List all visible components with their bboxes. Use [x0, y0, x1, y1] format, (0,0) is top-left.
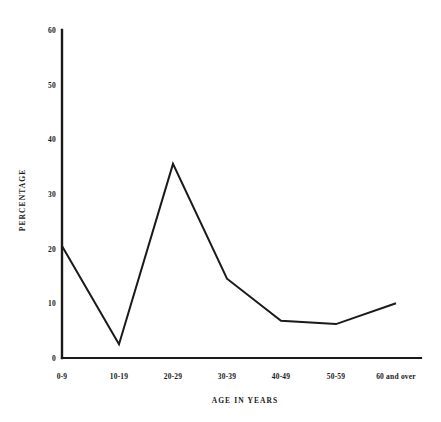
y-tick-label-30: 30 — [40, 190, 56, 199]
y-tick-label-10: 10 — [40, 299, 56, 308]
y-tick-label-20: 20 — [40, 244, 56, 253]
x-tick-label-30-39: 30-39 — [218, 372, 237, 381]
data-series-line — [62, 164, 396, 344]
x-tick-label-40-49: 40-49 — [272, 372, 291, 381]
x-tick-label-10-19: 10-19 — [110, 372, 129, 381]
x-axis-title: AGE IN YEARS — [212, 396, 279, 405]
y-tick-label-60: 60 — [40, 26, 56, 35]
y-tick-label-50: 50 — [40, 80, 56, 89]
y-tick-label-40: 40 — [40, 135, 56, 144]
x-tick-label-50-59: 50-59 — [327, 372, 346, 381]
y-tick-label-0: 0 — [40, 354, 56, 363]
line-chart: 60 50 40 30 20 10 0 0-9 10-19 20-29 30-3… — [0, 0, 441, 422]
x-tick-label-20-29: 20-29 — [164, 372, 183, 381]
chart-plot-area — [0, 0, 441, 422]
x-tick-label-0-9: 0-9 — [57, 372, 68, 381]
y-axis-title: PERCENTAGE — [18, 169, 27, 232]
x-tick-label-60-and-over: 60 and over — [376, 372, 416, 381]
